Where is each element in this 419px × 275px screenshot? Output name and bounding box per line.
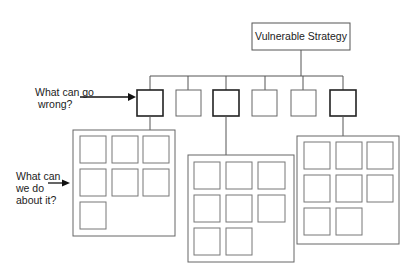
question-1-line-2: wrong?: [35, 98, 94, 110]
response-group-3: [297, 136, 399, 244]
risk-node-2: [176, 90, 201, 116]
response-item: [194, 162, 220, 189]
question-2-line-3: about it?: [16, 194, 60, 206]
response-item: [226, 228, 252, 255]
response-item: [304, 208, 330, 235]
response-item: [336, 208, 362, 235]
question-2-line-1: What can: [16, 170, 60, 182]
response-item: [336, 175, 362, 202]
question-what-can-go-wrong: What can go wrong?: [35, 86, 94, 110]
response-item: [112, 169, 138, 196]
response-item: [80, 169, 106, 196]
response-group-1: [73, 130, 175, 236]
response-item: [258, 162, 285, 189]
risk-node-1: [137, 90, 163, 116]
response-item: [367, 142, 393, 169]
response-item: [143, 169, 169, 196]
risk-node-6: [330, 90, 356, 116]
response-item: [304, 142, 330, 169]
response-item: [258, 195, 285, 222]
risk-node-3: [213, 90, 239, 116]
question-1-line-1: What can go: [35, 86, 94, 98]
response-item: [367, 175, 393, 202]
response-item: [80, 202, 106, 229]
response-item: [304, 175, 330, 202]
response-group-2: [188, 155, 294, 262]
question-what-can-we-do: What can we do about it?: [16, 170, 60, 206]
response-item: [194, 228, 220, 255]
branch-drops: [150, 76, 343, 90]
risk-node-5: [291, 90, 316, 116]
diagram-title: Vulnerable Strategy: [252, 30, 350, 42]
response-item: [226, 195, 252, 222]
response-item: [80, 136, 106, 163]
question-2-line-2: we do: [16, 182, 60, 194]
diagram-canvas: [0, 0, 419, 275]
response-item: [194, 195, 220, 222]
response-item: [336, 142, 362, 169]
response-item: [226, 162, 252, 189]
response-item: [112, 136, 138, 163]
response-item: [143, 136, 169, 163]
risk-node-4: [252, 90, 277, 116]
